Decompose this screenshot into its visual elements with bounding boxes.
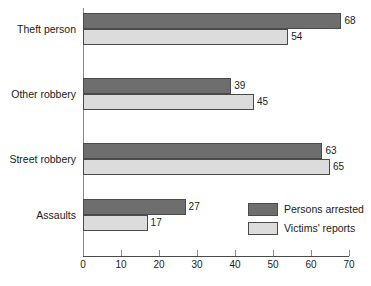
x-tick-70	[349, 250, 350, 256]
x-tick-label-10: 10	[115, 259, 126, 271]
legend-swatch-icon-victims-reports	[248, 222, 278, 235]
legend-label-victims-reports: Victims' reports	[284, 222, 355, 235]
bar-3-0	[83, 199, 186, 215]
bar-group-0: Theft person6854	[0, 13, 371, 45]
category-label-1: Other robbery	[0, 88, 76, 100]
bar-chart: 010203040506070 Theft person6854Other ro…	[0, 0, 371, 286]
legend-item-victims-reports: Victims' reports	[248, 220, 364, 237]
bar-value-2-1: 65	[333, 159, 344, 175]
legend-item-persons-arrested: Persons arrested	[248, 201, 364, 218]
x-tick-label-50: 50	[267, 259, 278, 271]
bar-value-3-0: 27	[189, 199, 200, 215]
chart-legend: Persons arrested Victims' reports	[248, 201, 364, 239]
bar-value-1-0: 39	[234, 78, 245, 94]
bar-group-1: Other robbery3945	[0, 78, 371, 110]
bar-2-0	[83, 143, 322, 159]
x-tick-0	[83, 250, 84, 256]
bar-value-0-0: 68	[344, 13, 355, 29]
x-tick-10	[121, 250, 122, 256]
x-axis-line	[83, 256, 349, 257]
x-tick-label-60: 60	[305, 259, 316, 271]
x-tick-30	[197, 250, 198, 256]
x-tick-60	[311, 250, 312, 256]
legend-label-persons-arrested: Persons arrested	[284, 203, 364, 216]
x-tick-label-40: 40	[229, 259, 240, 271]
bar-1-1	[83, 94, 254, 110]
bar-0-0	[83, 13, 341, 29]
legend-swatch-icon-persons-arrested	[248, 203, 278, 216]
x-tick-label-0: 0	[80, 259, 86, 271]
bar-0-1	[83, 29, 288, 45]
bar-value-1-1: 45	[257, 94, 268, 110]
bar-1-0	[83, 78, 231, 94]
bar-value-0-1: 54	[291, 29, 302, 45]
x-tick-label-20: 20	[153, 259, 164, 271]
bar-value-2-0: 63	[325, 143, 336, 159]
x-tick-50	[273, 250, 274, 256]
bar-2-1	[83, 159, 330, 175]
category-label-2: Street robbery	[0, 153, 76, 165]
category-label-3: Assaults	[0, 209, 76, 221]
x-tick-40	[235, 250, 236, 256]
x-tick-label-70: 70	[343, 259, 354, 271]
x-tick-20	[159, 250, 160, 256]
category-label-0: Theft person	[0, 23, 76, 35]
x-tick-label-30: 30	[191, 259, 202, 271]
bar-3-1	[83, 215, 148, 231]
bar-value-3-1: 17	[151, 215, 162, 231]
bar-group-2: Street robbery6365	[0, 143, 371, 175]
